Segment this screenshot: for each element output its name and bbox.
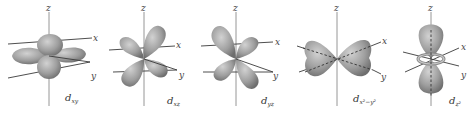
svg-text:z: z xyxy=(140,3,146,13)
svg-text:y: y xyxy=(460,70,467,80)
orbital-dx2y2-panel: z x y dx²−y² xyxy=(285,0,395,116)
svg-text:y: y xyxy=(272,71,279,81)
orbital-dx2y2-diagram: z x y dx²−y² xyxy=(285,0,395,116)
orbital-label: dx²−y² xyxy=(353,93,377,106)
orbital-dz2-panel: z x y dz² xyxy=(385,0,471,116)
lobe xyxy=(37,34,63,56)
svg-text:z: z xyxy=(427,3,433,13)
orbital-label: dyz xyxy=(261,95,275,108)
svg-text:z: z xyxy=(232,3,238,13)
lobe xyxy=(37,55,61,79)
svg-text:y: y xyxy=(178,70,185,80)
orbital-dyz-diagram: z x y dyz xyxy=(195,0,295,116)
svg-text:x: x xyxy=(176,40,181,50)
orbital-dxz-diagram: z x y dxz xyxy=(95,0,195,116)
z-axis-label: z xyxy=(45,3,51,13)
svg-text:x: x xyxy=(461,42,466,52)
orbital-dxy-diagram: z x y dxy xyxy=(0,0,100,116)
orbital-label: dxz xyxy=(167,95,181,107)
orbital-dyz-panel: z x y dyz xyxy=(195,0,295,116)
orbital-dxy-panel: z x y dxy xyxy=(0,0,100,116)
orbital-label: dz² xyxy=(449,95,462,107)
svg-text:x: x xyxy=(275,37,280,47)
svg-text:z: z xyxy=(333,3,339,13)
orbital-dz2-diagram: z x y dz² xyxy=(385,0,471,116)
orbital-label: dxy xyxy=(65,92,79,105)
orbital-dxz-panel: z x y dxz xyxy=(95,0,195,116)
